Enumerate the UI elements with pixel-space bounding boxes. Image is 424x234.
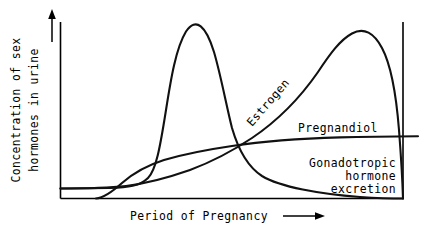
- y-axis-arrow-icon: [48, 9, 56, 42]
- y-axis-title-line2: hormones in urine: [27, 48, 41, 171]
- x-axis-arrow-icon: [283, 212, 325, 220]
- series-label-gonadotropic-line2: hormone: [345, 169, 396, 183]
- hormone-concentration-chart: Estrogen Pregnandiol Gonadotropic hormon…: [0, 0, 424, 234]
- series-label-pregnandiol: Pregnandiol: [298, 121, 378, 135]
- y-axis-title-line1: Concentration of sex: [9, 37, 23, 182]
- series-label-gonadotropic-line1: Gonadotropic: [309, 156, 396, 170]
- x-axis-title: Period of Pregnancy: [130, 209, 268, 223]
- chart-canvas: Estrogen Pregnandiol Gonadotropic hormon…: [0, 0, 424, 234]
- series-label-estrogen: Estrogen: [244, 76, 293, 129]
- series-label-gonadotropic-line3: excretion: [331, 182, 396, 196]
